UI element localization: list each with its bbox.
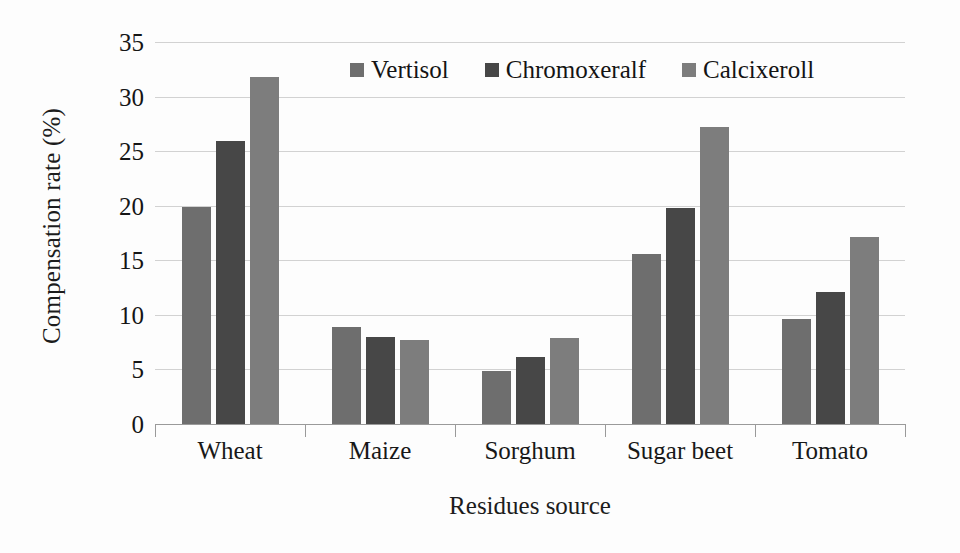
bar[interactable]: [182, 207, 211, 424]
y-axis-tick-label: 35: [119, 30, 144, 55]
category-tick-marks: [155, 424, 905, 437]
category-label: Wheat: [155, 437, 305, 465]
legend-item[interactable]: Calcixeroll: [682, 57, 814, 82]
y-axis-tick-label: 5: [132, 357, 145, 382]
legend-swatch-icon: [682, 63, 696, 77]
bar[interactable]: [400, 340, 429, 424]
y-axis-tick-label: 25: [119, 139, 144, 164]
y-axis-tick-label: 0: [132, 412, 145, 437]
legend-item[interactable]: Vertisol: [350, 57, 449, 82]
y-axis-tick-labels: 05101520253035: [92, 42, 144, 424]
y-axis-tick-label: 10: [119, 302, 144, 327]
bar[interactable]: [850, 237, 879, 424]
bar[interactable]: [332, 327, 361, 424]
bar[interactable]: [516, 357, 545, 424]
legend: VertisolChromoxeralfCalcixeroll: [350, 57, 814, 82]
category-tick: [155, 424, 156, 437]
bar-group: [755, 42, 905, 424]
bar[interactable]: [782, 319, 811, 424]
y-axis-tick-label: 30: [119, 84, 144, 109]
bar[interactable]: [632, 254, 661, 424]
bar[interactable]: [550, 338, 579, 424]
bar[interactable]: [216, 141, 245, 424]
x-axis-category-labels: WheatMaizeSorghumSugar beetTomato: [155, 437, 905, 465]
category-tick: [455, 424, 456, 437]
y-axis-tick-label: 20: [119, 193, 144, 218]
category-label: Maize: [305, 437, 455, 465]
bar[interactable]: [816, 292, 845, 424]
x-axis-title: Residues source: [155, 492, 905, 520]
y-axis-title: Compensation rate (%): [38, 56, 66, 396]
plot-area: [155, 42, 905, 424]
legend-label: Calcixeroll: [703, 57, 814, 82]
y-axis-tick-label: 15: [119, 248, 144, 273]
bar-group: [455, 42, 605, 424]
bar[interactable]: [250, 77, 279, 424]
legend-swatch-icon: [350, 63, 364, 77]
bar-group: [155, 42, 305, 424]
legend-label: Chromoxeralf: [506, 57, 646, 82]
bar[interactable]: [366, 337, 395, 424]
category-tick: [305, 424, 306, 437]
bar-group: [605, 42, 755, 424]
bar[interactable]: [700, 127, 729, 424]
bar-group: [305, 42, 455, 424]
chart-figure: Compensation rate (%) 05101520253035 Whe…: [0, 0, 960, 553]
category-tick: [605, 424, 606, 437]
legend-label: Vertisol: [371, 57, 449, 82]
bar-groups: [155, 42, 905, 424]
legend-item[interactable]: Chromoxeralf: [485, 57, 646, 82]
category-label: Tomato: [755, 437, 905, 465]
bar[interactable]: [666, 208, 695, 424]
legend-swatch-icon: [485, 63, 499, 77]
category-label: Sugar beet: [605, 437, 755, 465]
bar[interactable]: [482, 371, 511, 424]
category-tick: [755, 424, 756, 437]
category-tick: [905, 424, 906, 437]
category-label: Sorghum: [455, 437, 605, 465]
